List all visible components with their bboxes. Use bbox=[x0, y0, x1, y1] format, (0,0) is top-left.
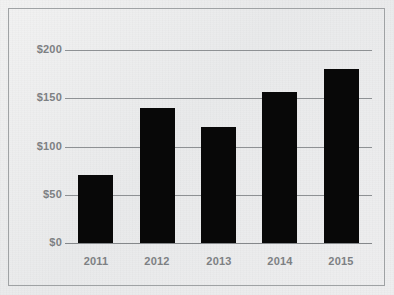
plot-area: $0$50$100$150$20020112012201320142015 bbox=[0, 0, 394, 295]
x-axis-label-2011: 2011 bbox=[66, 255, 126, 267]
axis-baseline bbox=[65, 243, 372, 244]
y-axis-label-100: $100 bbox=[2, 140, 62, 152]
chart-screenshot: $0$50$100$150$20020112012201320142015 bbox=[0, 0, 394, 295]
x-axis-label-2012: 2012 bbox=[127, 255, 187, 267]
bar-2015 bbox=[324, 69, 359, 243]
x-axis-label-2013: 2013 bbox=[189, 255, 249, 267]
x-axis-label-2014: 2014 bbox=[250, 255, 310, 267]
y-axis-label-200: $200 bbox=[2, 43, 62, 55]
gridline-200 bbox=[65, 50, 372, 51]
bar-2013 bbox=[201, 127, 236, 243]
bar-2014 bbox=[262, 92, 297, 243]
y-axis-label-50: $50 bbox=[2, 188, 62, 200]
y-axis-label-0: $0 bbox=[2, 236, 62, 248]
bar-2011 bbox=[78, 175, 113, 243]
x-axis-label-2015: 2015 bbox=[311, 255, 371, 267]
bar-2012 bbox=[140, 108, 175, 243]
y-axis-label-150: $150 bbox=[2, 91, 62, 103]
